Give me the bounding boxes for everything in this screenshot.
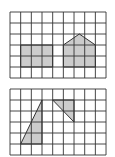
grid-figures <box>0 0 115 157</box>
pentagon-house-shape <box>63 34 95 67</box>
bottom-grid <box>10 89 106 155</box>
top-grid <box>10 12 106 78</box>
